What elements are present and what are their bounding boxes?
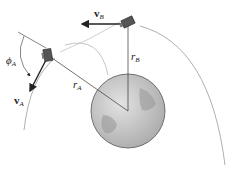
label-phiA: ϕA (6, 54, 17, 68)
phi-angle-arc (20, 36, 30, 76)
orbit-a-path (24, 58, 55, 130)
label-rB: rB (131, 50, 140, 64)
label-vB: vB (94, 7, 105, 21)
orbit-diagram: vB vA ϕA rA rB (0, 0, 236, 175)
transfer-orbit-path (65, 43, 108, 75)
satellite-b-icon (118, 16, 135, 30)
velocity-a-arrow (30, 60, 46, 91)
orbit-a-top (60, 22, 120, 52)
label-rA: rA (73, 78, 82, 92)
satellite-a-icon (41, 48, 53, 62)
label-vA: vA (14, 94, 25, 108)
